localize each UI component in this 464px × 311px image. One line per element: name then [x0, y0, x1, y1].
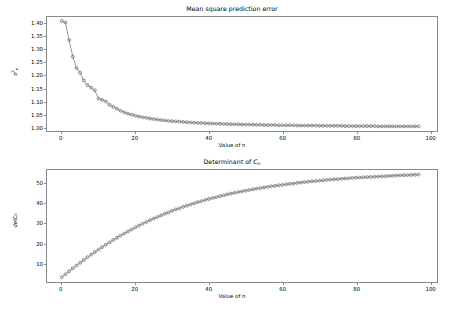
data-point-marker [60, 276, 63, 279]
figure-root: Mean square prediction error σ2n 1.001.0… [0, 0, 464, 311]
x-tick-mark [135, 283, 136, 285]
x-axis-label-bottom: Value of n [0, 293, 464, 299]
y-tick-label: 50 [25, 180, 43, 186]
x-tick-label: 20 [131, 286, 138, 292]
y-tick-label: 1.10 [25, 99, 43, 105]
y-tick-mark [44, 89, 46, 90]
x-tick-mark [209, 283, 210, 285]
panel-mean-square-prediction-error: Mean square prediction error σ2n 1.001.0… [0, 0, 464, 155]
x-tick-mark [61, 132, 62, 134]
data-line [62, 175, 419, 278]
y-tick-mark [44, 49, 46, 50]
y-tick-mark [44, 264, 46, 265]
y-tick-label: 1.40 [25, 20, 43, 26]
x-tick-mark [61, 283, 62, 285]
y-axis-label-top: σ2n [11, 55, 18, 89]
y-tick-label: 1.15 [25, 86, 43, 92]
x-tick-mark [283, 132, 284, 134]
x-tick-label: 100 [425, 135, 435, 141]
y-tick-label: 1.25 [25, 59, 43, 65]
x-tick-mark [357, 132, 358, 134]
y-tick-mark [44, 128, 46, 129]
x-tick-label: 80 [353, 286, 360, 292]
x-tick-mark [135, 132, 136, 134]
y-tick-label: 30 [25, 220, 43, 226]
y-tick-mark [44, 115, 46, 116]
x-tick-label: 100 [425, 286, 435, 292]
y-tick-label: 1.00 [25, 125, 43, 131]
x-tick-label: 80 [353, 135, 360, 141]
panel-determinant-of-cn: Determinant of Cn detCn 1020304050 02040… [0, 155, 464, 311]
y-tick-mark [44, 244, 46, 245]
y-tick-mark [44, 223, 46, 224]
series-bottom [47, 170, 437, 282]
x-tick-mark [209, 132, 210, 134]
y-tick-label: 1.35 [25, 33, 43, 39]
x-axis-label-top: Value of n [0, 142, 464, 148]
plot-area-top [46, 16, 438, 132]
y-tick-mark [44, 203, 46, 204]
x-tick-label: 0 [59, 135, 62, 141]
x-tick-label: 60 [279, 286, 286, 292]
data-line [62, 21, 419, 126]
y-tick-mark [44, 23, 46, 24]
chart-title-bottom: Determinant of Cn [0, 158, 464, 166]
y-tick-label: 1.20 [25, 72, 43, 78]
y-tick-label: 1.05 [25, 112, 43, 118]
x-tick-label: 60 [279, 135, 286, 141]
x-tick-mark [357, 283, 358, 285]
x-tick-label: 20 [131, 135, 138, 141]
chart-title-top: Mean square prediction error [0, 5, 464, 12]
y-tick-mark [44, 62, 46, 63]
x-tick-label: 0 [59, 286, 62, 292]
y-tick-label: 40 [25, 200, 43, 206]
x-tick-label: 40 [205, 286, 212, 292]
y-tick-label: 10 [25, 261, 43, 267]
x-tick-mark [283, 283, 284, 285]
x-tick-mark [431, 132, 432, 134]
y-axis-label-bottom: detCn [12, 203, 19, 237]
y-tick-label: 20 [25, 241, 43, 247]
y-tick-label: 1.30 [25, 46, 43, 52]
y-tick-mark [44, 75, 46, 76]
y-tick-mark [44, 102, 46, 103]
y-tick-mark [44, 183, 46, 184]
y-tick-mark [44, 36, 46, 37]
plot-area-bottom [46, 169, 438, 283]
x-tick-mark [431, 283, 432, 285]
series-top [47, 17, 437, 131]
x-tick-label: 40 [205, 135, 212, 141]
data-point-marker [60, 19, 63, 22]
